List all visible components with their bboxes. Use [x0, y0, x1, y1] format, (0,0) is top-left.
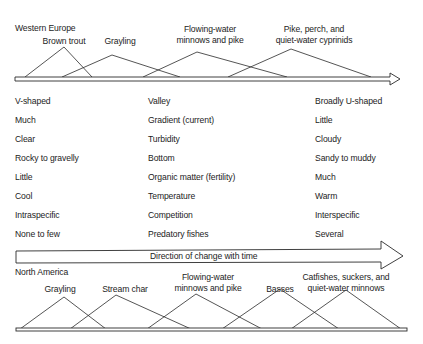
zone-label-flowing-water-na-line1: Flowing-water: [182, 272, 234, 282]
triangle-basses: [222, 289, 339, 329]
zone-label-grayling-na: Grayling: [44, 284, 75, 294]
factor-valley: Valley: [148, 96, 170, 106]
downstream-bottom: Sandy to muddy: [315, 153, 376, 163]
factor-temperature: Temperature: [148, 191, 195, 201]
zone-label-stream-char: Stream char: [102, 284, 148, 294]
time-arrow-label: Direction of change with time: [150, 251, 257, 261]
downstream-valley: Broadly U-shaped: [315, 96, 382, 106]
upstream-bottom: Rocky to gravelly: [15, 153, 79, 163]
downstream-competition: Interspecific: [315, 210, 360, 220]
factor-predatory-fishes: Predatory fishes: [148, 229, 209, 239]
downstream-organic-matter: Much: [315, 172, 336, 182]
triangle-flowing-water-eu: [143, 52, 287, 77]
region-label-north-america: North America: [15, 267, 68, 277]
triangle-catfishes: [291, 290, 401, 329]
zone-label-flowing-water-na-line2: minnows and pike: [174, 283, 241, 293]
upstream-organic-matter: Little: [15, 172, 33, 182]
upstream-turbidity: Clear: [15, 134, 35, 144]
bottom-zone-triangles: [20, 289, 401, 329]
triangle-grayling-eu: [62, 55, 180, 77]
downstream-predatory-fishes: Several: [315, 229, 343, 239]
factor-gradient: Gradient (current): [148, 115, 214, 125]
upstream-competition: Intraspecific: [15, 210, 60, 220]
bottom-axis-bar: [16, 328, 407, 331]
top-zone-triangles: [25, 47, 371, 77]
triangle-pike-perch: [228, 49, 371, 77]
upstream-valley: V-shaped: [15, 96, 51, 106]
upstream-predatory-fishes: None to few: [15, 229, 60, 239]
zone-label-catfishes-line2: quiet-water minnows: [308, 283, 385, 293]
zone-label-catfishes-line1: Catfishes, suckers, and: [302, 272, 389, 282]
factor-turbidity: Turbidity: [148, 134, 180, 144]
triangle-grayling-na: [20, 297, 106, 329]
downstream-temperature: Warm: [315, 191, 337, 201]
top-axis-arrow: [15, 73, 400, 85]
zone-label-basses: Basses: [266, 284, 294, 294]
upstream-gradient: Much: [15, 115, 36, 125]
factor-bottom: Bottom: [148, 153, 175, 163]
triangle-flowing-water-na: [147, 294, 262, 329]
factor-competition: Competition: [148, 210, 193, 220]
factor-organic-matter: Organic matter (fertility): [148, 172, 235, 182]
triangle-brown-trout: [25, 47, 92, 77]
downstream-turbidity: Cloudy: [315, 134, 341, 144]
downstream-gradient: Little: [315, 115, 333, 125]
upstream-temperature: Cool: [15, 191, 32, 201]
triangle-stream-char: [70, 295, 191, 329]
